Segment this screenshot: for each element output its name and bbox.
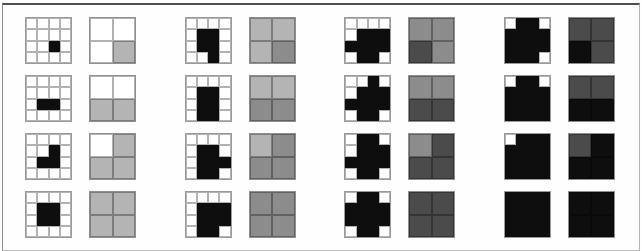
pair-group1-row3 (25, 133, 136, 180)
white-cell (26, 145, 37, 156)
binary-grid (25, 133, 72, 180)
black-cell (368, 110, 379, 121)
pair-group2-row3 (185, 133, 296, 180)
white-cell (219, 87, 230, 98)
gray-cell-level-3 (432, 192, 455, 215)
black-cell (505, 145, 516, 156)
gray-cell-level-0 (90, 76, 113, 99)
black-cell (368, 76, 379, 87)
white-cell (49, 76, 60, 87)
gray-cell-level-4 (591, 99, 614, 122)
white-cell (186, 192, 197, 203)
gray-grid (249, 75, 296, 122)
white-cell (186, 99, 197, 110)
black-cell (368, 157, 379, 168)
black-cell (516, 226, 527, 237)
gray-cell-level-4 (591, 215, 614, 238)
binary-grid (504, 191, 551, 238)
black-cell (357, 157, 368, 168)
white-cell (60, 145, 71, 156)
gray-cell-level-2 (250, 192, 273, 215)
black-cell (368, 52, 379, 63)
pair-group4-row2 (504, 75, 615, 122)
gray-cell-level-3 (409, 157, 432, 180)
white-cell (49, 29, 60, 40)
white-cell (60, 76, 71, 87)
black-cell (379, 203, 390, 214)
white-cell (26, 215, 37, 226)
white-cell (60, 41, 71, 52)
white-cell (539, 18, 550, 29)
white-cell (345, 87, 356, 98)
white-cell (345, 110, 356, 121)
black-cell (37, 99, 48, 110)
gray-cell-level-3 (569, 134, 592, 157)
white-cell (379, 134, 390, 145)
binary-grid (185, 17, 232, 64)
white-cell (197, 192, 208, 203)
gray-grid (249, 191, 296, 238)
gray-cell-level-3 (409, 192, 432, 215)
pair-group2-row1 (185, 17, 296, 64)
white-cell (186, 157, 197, 168)
white-cell (60, 87, 71, 98)
white-cell (186, 76, 197, 87)
gray-grid (568, 191, 615, 238)
white-cell (26, 203, 37, 214)
white-cell (186, 18, 197, 29)
white-cell (49, 134, 60, 145)
white-cell (505, 76, 516, 87)
white-cell (60, 134, 71, 145)
gray-cell-level-0 (90, 18, 113, 41)
white-cell (60, 226, 71, 237)
white-cell (208, 18, 219, 29)
white-cell (345, 226, 356, 237)
black-cell (505, 168, 516, 179)
black-cell (539, 145, 550, 156)
black-cell (516, 145, 527, 156)
gray-cell-level-2 (250, 99, 273, 122)
black-cell (357, 145, 368, 156)
white-cell (345, 134, 356, 145)
black-cell (505, 157, 516, 168)
black-cell (527, 110, 538, 121)
white-cell (26, 29, 37, 40)
black-cell (208, 215, 219, 226)
white-cell (26, 110, 37, 121)
white-cell (197, 52, 208, 63)
white-cell (505, 134, 516, 145)
black-cell (527, 157, 538, 168)
black-cell (345, 99, 356, 110)
white-cell (49, 110, 60, 121)
white-cell (219, 110, 230, 121)
white-cell (186, 87, 197, 98)
white-cell (26, 41, 37, 52)
black-cell (357, 29, 368, 40)
white-cell (49, 226, 60, 237)
white-cell (345, 29, 356, 40)
black-cell (49, 99, 60, 110)
black-cell (368, 134, 379, 145)
black-cell (208, 87, 219, 98)
binary-grid (25, 191, 72, 238)
white-cell (379, 192, 390, 203)
black-cell (505, 52, 516, 63)
black-cell (197, 110, 208, 121)
gray-grid (408, 75, 455, 122)
black-cell (516, 29, 527, 40)
gray-cell-level-3 (569, 76, 592, 99)
white-cell (60, 18, 71, 29)
gray-cell-level-1 (113, 99, 136, 122)
pair-group1-row1 (25, 17, 136, 64)
white-cell (219, 168, 230, 179)
black-cell (539, 110, 550, 121)
black-cell (527, 52, 538, 63)
black-cell (539, 87, 550, 98)
gray-cell-level-3 (432, 215, 455, 238)
gray-cell-level-0 (90, 41, 113, 64)
white-cell (26, 157, 37, 168)
gray-grid (568, 17, 615, 64)
white-cell (379, 226, 390, 237)
gray-cell-level-1 (90, 99, 113, 122)
gray-cell-level-2 (272, 99, 295, 122)
